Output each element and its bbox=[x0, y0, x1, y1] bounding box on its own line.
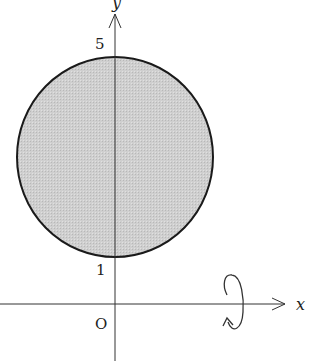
rotation-arrow-icon bbox=[223, 275, 243, 329]
origin-label: O bbox=[95, 315, 107, 333]
y-axis-label: y bbox=[111, 0, 122, 12]
tick-label-5: 5 bbox=[95, 35, 105, 53]
tick-label-1: 1 bbox=[96, 261, 106, 279]
x-axis-label: x bbox=[296, 295, 305, 314]
diagram-canvas: x y O 5 1 bbox=[0, 0, 312, 361]
